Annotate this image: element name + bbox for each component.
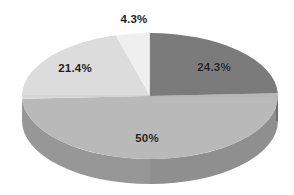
pie-label-4-3: 4.3% bbox=[120, 13, 147, 25]
pie-label-24-3: 24.3% bbox=[197, 61, 231, 73]
pie-chart-canvas bbox=[0, 0, 294, 195]
pie-label-21-4: 21.4% bbox=[58, 62, 92, 74]
pie-label-50: 50% bbox=[135, 132, 159, 144]
pie-chart: 4.3% 24.3% 21.4% 50% bbox=[0, 0, 294, 195]
